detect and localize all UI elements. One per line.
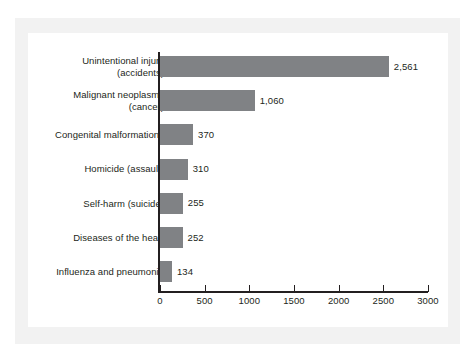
bar-value-label: 134 — [177, 266, 193, 277]
bar — [160, 159, 188, 180]
bar-value-label: 2,561 — [394, 61, 418, 72]
bar-value-label: 310 — [193, 163, 209, 174]
x-tick-label: 0 — [140, 295, 180, 306]
category-label: Congenital malformations — [24, 129, 164, 141]
bar — [160, 193, 183, 214]
x-tick-label: 2000 — [319, 295, 359, 306]
category-label-line: Homicide (assault) — [24, 163, 164, 175]
chart-row: Congenital malformations370 — [0, 124, 474, 152]
x-tick-mark — [160, 285, 161, 292]
category-label-line: Congenital malformations — [24, 129, 164, 141]
chart-row: Influenza and pneumonia134 — [0, 261, 474, 289]
category-label: Unintentional injury(accidents) — [24, 55, 164, 78]
category-label: Homicide (assault) — [24, 163, 164, 175]
bar-value-label: 370 — [198, 129, 214, 140]
category-label-line: (cancer) — [24, 101, 164, 113]
bar — [160, 56, 389, 77]
category-label-line: Influenza and pneumonia — [24, 266, 164, 278]
category-label-line: Self-harm (suicide) — [24, 198, 164, 210]
bar-value-label: 252 — [188, 232, 204, 243]
bar — [160, 227, 183, 248]
x-tick-label: 1000 — [229, 295, 269, 306]
bar — [160, 124, 193, 145]
x-tick-mark — [383, 285, 384, 292]
x-tick-mark — [205, 285, 206, 292]
category-label-line: Unintentional injury — [24, 55, 164, 67]
x-axis-line — [158, 291, 428, 293]
x-tick-label: 1500 — [274, 295, 314, 306]
x-tick-mark — [339, 285, 340, 292]
category-label-line: Diseases of the heart — [24, 232, 164, 244]
category-label: Self-harm (suicide) — [24, 198, 164, 210]
x-tick-label: 2500 — [363, 295, 403, 306]
x-tick-mark — [249, 285, 250, 292]
chart-row: Diseases of the heart252 — [0, 227, 474, 255]
chart-figure: Unintentional injury(accidents)2,561Mali… — [0, 0, 474, 357]
chart-row: Malignant neoplasms(cancer)1,060 — [0, 90, 474, 118]
bar — [160, 261, 172, 282]
x-tick-mark — [294, 285, 295, 292]
plot-area: Unintentional injury(accidents)2,561Mali… — [0, 0, 474, 357]
bar — [160, 90, 255, 111]
chart-row: Homicide (assault)310 — [0, 159, 474, 187]
category-label-line: (accidents) — [24, 67, 164, 79]
category-label: Malignant neoplasms(cancer) — [24, 89, 164, 112]
category-label-line: Malignant neoplasms — [24, 89, 164, 101]
chart-row: Unintentional injury(accidents)2,561 — [0, 56, 474, 84]
category-label: Influenza and pneumonia — [24, 266, 164, 278]
x-tick-mark — [428, 285, 429, 292]
category-label: Diseases of the heart — [24, 232, 164, 244]
bar-value-label: 1,060 — [260, 95, 284, 106]
chart-row: Self-harm (suicide)255 — [0, 193, 474, 221]
bar-value-label: 255 — [188, 197, 204, 208]
x-tick-label: 500 — [185, 295, 225, 306]
x-tick-label: 3000 — [408, 295, 448, 306]
